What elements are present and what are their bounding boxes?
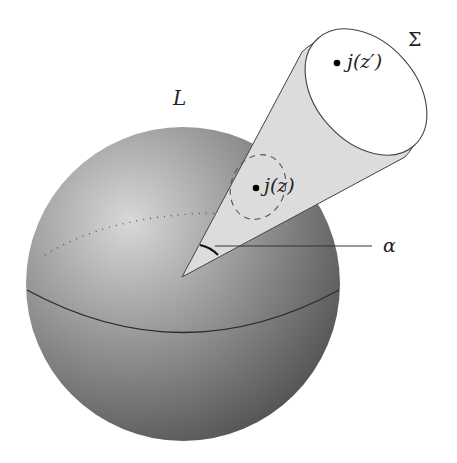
label-sigma: Σ: [408, 28, 421, 50]
label-alpha: α: [383, 234, 396, 256]
label-j-z-prime: j(z′): [347, 50, 382, 72]
diagram-canvas: L Σ j(z′) j(z) α: [0, 0, 457, 463]
label-L: L: [173, 86, 186, 110]
point-j-z: [253, 185, 260, 192]
point-j-z-prime: [334, 60, 341, 67]
label-j-z: j(z): [264, 174, 295, 196]
sphere-cone-figure: [0, 0, 457, 463]
